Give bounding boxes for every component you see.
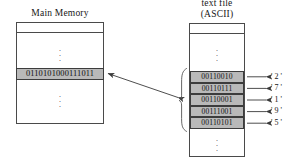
text-file-byte-cell: 00110001 [190,94,244,106]
ascii-char-label: ' 7 ' [271,83,282,93]
main-memory-ellipsis-top: . . . [55,46,65,61]
memory-to-file-arrow [108,74,178,98]
text-file-ellipsis-top: . . . [212,46,222,61]
text-file-byte-cell: 00111001 [190,106,244,118]
text-file-title-line2: (ASCII) [186,9,248,20]
main-memory-ellipsis-bottom: . . . [55,92,65,107]
main-memory-word-cell: 0110101000111011 [16,68,104,80]
ascii-char-label: ' 5 ' [271,118,282,128]
main-memory-title: Main Memory [14,8,106,19]
byte-to-char-arrows [247,77,266,123]
text-file-header-rule [190,33,244,34]
text-file-byte-cell: 00110101 [190,117,244,129]
memory-to-textfile-diagram: Main Memory . . . 0110101000111011 . . .… [0,0,289,165]
text-file-ellipsis-bottom: . . . [212,136,222,151]
text-file-byte-cell: 00110111 [190,83,244,95]
text-file-byte-cell: 00110010 [190,71,244,83]
ascii-char-label: ' 2 ' [271,72,282,82]
main-memory-header-rule [17,32,103,33]
byte-group-brace [179,69,186,132]
ascii-char-label: ' 9 ' [271,106,282,116]
text-file-title-line1: text file [186,0,248,9]
ascii-char-label: ' 1 ' [271,95,282,105]
text-file-title: text file (ASCII) [186,0,248,20]
